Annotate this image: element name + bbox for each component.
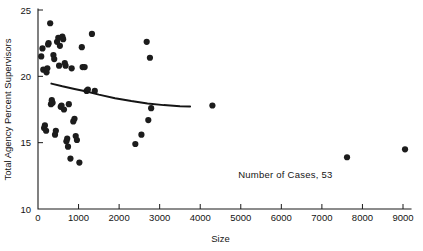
x-tick-label: 2000 (109, 212, 130, 223)
data-point (71, 116, 77, 122)
y-tick-label: 10 (20, 204, 31, 215)
data-point (132, 141, 138, 147)
data-point (47, 20, 53, 26)
x-tick-label: 6000 (271, 212, 292, 223)
data-point (344, 154, 350, 160)
x-tick-label: 9000 (392, 212, 413, 223)
data-point (44, 65, 50, 71)
data-point (67, 155, 73, 161)
y-tick-label: 20 (20, 71, 31, 82)
data-point (65, 144, 71, 150)
fit-curve-group (51, 84, 190, 107)
data-point (209, 102, 215, 108)
data-point (43, 128, 49, 134)
axis-spines (38, 9, 411, 209)
x-tick-label: 7000 (311, 212, 332, 223)
x-tick-label: 3000 (149, 212, 170, 223)
data-point (45, 40, 51, 46)
data-point (38, 53, 44, 59)
fit-curve-line (51, 84, 190, 107)
data-point (145, 117, 151, 123)
data-point (50, 100, 56, 106)
data-point (42, 122, 48, 128)
axes-group (38, 9, 411, 209)
data-point (82, 64, 88, 70)
data-point (76, 159, 82, 165)
x-tick-group: 0100020003000400050006000700080009000 (35, 204, 413, 223)
chart-canvas: 0100020003000400050006000700080009000 10… (0, 0, 423, 251)
data-point (57, 43, 63, 49)
data-point (39, 45, 45, 51)
data-point (138, 132, 144, 138)
x-tick-label: 0 (35, 212, 40, 223)
data-point (148, 105, 154, 111)
scatter-plot-figure: 0100020003000400050006000700080009000 10… (0, 0, 423, 251)
data-point (144, 39, 150, 45)
x-tick-label: 8000 (352, 212, 373, 223)
data-point (62, 63, 68, 69)
data-point (51, 56, 57, 62)
data-point (147, 55, 153, 61)
data-point (61, 106, 67, 112)
data-point (53, 128, 59, 134)
data-point (74, 137, 80, 143)
y-tick-group: 10152025 (20, 5, 43, 215)
cases-annotation: Number of Cases, 53 (238, 169, 333, 180)
data-point (79, 44, 85, 50)
annotation-group: Number of Cases, 53 (238, 169, 333, 180)
data-point (402, 146, 408, 152)
data-point (66, 101, 72, 107)
data-point (89, 31, 95, 37)
data-point (60, 36, 66, 42)
y-tick-label: 25 (20, 5, 31, 16)
y-axis-title: Total Agency Percent Supervisors (2, 38, 13, 180)
y-tick-label: 15 (20, 137, 31, 148)
data-point (69, 65, 75, 71)
data-point (56, 63, 62, 69)
x-tick-label: 4000 (190, 212, 211, 223)
x-axis-title: Size (211, 233, 229, 244)
data-point (64, 136, 70, 142)
x-tick-label: 5000 (230, 212, 251, 223)
x-tick-label: 1000 (68, 212, 89, 223)
